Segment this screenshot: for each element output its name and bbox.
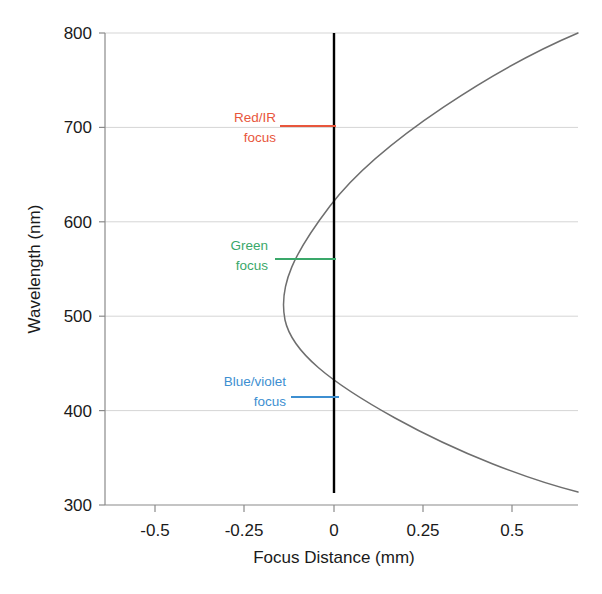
y-tick-label-600: 600: [64, 213, 92, 232]
blue-focus-label-line2: focus: [254, 394, 287, 409]
red-focus-label-line2: focus: [244, 130, 277, 145]
x-tick-label-025: 0.25: [406, 521, 439, 540]
y-tick-label-300: 300: [64, 496, 92, 515]
red-focus-label-line1: Red/IR: [234, 110, 276, 125]
chart-svg: 800 700 600 500 400 300 -0.5 -0.25 0 0.2…: [0, 0, 602, 594]
x-axis-title: Focus Distance (mm): [253, 548, 415, 567]
y-axis-title: Wavelength (nm): [25, 205, 44, 334]
y-tick-label-400: 400: [64, 402, 92, 421]
chromatic-focus-chart: 800 700 600 500 400 300 -0.5 -0.25 0 0.2…: [0, 0, 602, 594]
x-tick-label-m050: -0.5: [140, 521, 169, 540]
y-tick-label-500: 500: [64, 307, 92, 326]
x-tick-label-0: 0: [329, 521, 338, 540]
green-focus-label-line2: focus: [236, 258, 269, 273]
x-tick-label-m025: -0.25: [225, 521, 264, 540]
x-axis-ticks: [155, 505, 512, 512]
y-tick-label-700: 700: [64, 118, 92, 137]
y-axis-ticks: [99, 33, 105, 505]
x-tick-label-050: 0.5: [500, 521, 524, 540]
green-focus-label-line1: Green: [230, 238, 268, 253]
blue-focus-label-line1: Blue/violet: [224, 374, 287, 389]
plot-area-background: [105, 33, 578, 505]
y-tick-label-800: 800: [64, 24, 92, 43]
